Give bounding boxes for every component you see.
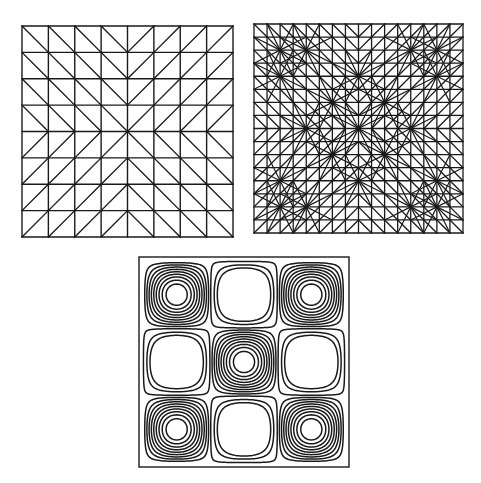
mesh-diagonal-edge xyxy=(372,37,385,50)
mesh-hub-node xyxy=(279,179,282,182)
mesh-diagonal-edge xyxy=(75,211,101,237)
mesh-diagonal-edge xyxy=(75,158,101,184)
mesh-diagonal-edge xyxy=(306,50,319,63)
coarse-triangular-mesh xyxy=(22,26,233,237)
mesh-diagonal-edge xyxy=(359,168,372,181)
mesh-diagonal-edge xyxy=(411,24,424,37)
mesh-diagonal-edge xyxy=(267,220,280,233)
mesh-diagonal-edge xyxy=(293,102,306,115)
mesh-diagonal-edge xyxy=(180,158,206,184)
mesh-diagonal-edge xyxy=(267,168,280,181)
mesh-diagonal-edge xyxy=(254,115,267,128)
mesh-diagonal-edge xyxy=(319,63,332,76)
mesh-diagonal-edge xyxy=(385,24,398,37)
mesh-diagonal-edge xyxy=(345,89,358,102)
mesh-diagonal-edge xyxy=(359,24,372,37)
mesh-diagonal-edge xyxy=(207,211,233,237)
mesh-diagonal-edge xyxy=(437,142,450,155)
mesh-diagonal-edge xyxy=(101,26,127,52)
mesh-hub-node xyxy=(279,49,282,52)
mesh-diagonal-edge xyxy=(385,194,398,207)
mesh-diagonal-edge xyxy=(372,89,385,102)
mesh-diagonal-edge xyxy=(254,220,267,233)
mesh-diagonal-edge xyxy=(437,194,450,207)
mesh-diagonal-edge xyxy=(345,63,358,76)
mesh-diagonal-edge xyxy=(48,105,74,131)
mesh-diagonal-edge xyxy=(411,89,424,102)
mesh-diagonal-edge xyxy=(280,129,293,142)
mesh-diagonal-edge xyxy=(372,76,385,89)
mesh-diagonal-edge xyxy=(398,50,411,63)
mesh-diagonal-edge xyxy=(48,211,74,237)
mesh-diagonal-edge xyxy=(306,129,319,142)
mesh-diagonal-edge xyxy=(332,102,345,115)
mesh-diagonal-edge xyxy=(385,181,398,194)
mesh-diagonal-edge xyxy=(450,76,463,89)
mesh-diagonal-edge xyxy=(254,102,267,115)
mesh-diagonal-edge xyxy=(372,115,385,128)
mesh-diagonal-edge xyxy=(293,37,306,50)
mesh-diagonal-edge xyxy=(101,79,127,105)
mesh-diagonal-edge xyxy=(280,89,293,102)
mesh-diagonal-edge xyxy=(306,194,319,207)
mesh-diagonal-edge xyxy=(280,207,293,220)
mesh-diagonal-edge xyxy=(411,220,424,233)
mesh-diagonal-edge xyxy=(75,132,101,158)
mesh-diagonal-edge xyxy=(385,89,398,102)
mesh-diagonal-edge xyxy=(254,24,267,37)
mesh-diagonal-edge xyxy=(267,207,280,220)
mesh-diagonal-edge xyxy=(180,211,206,237)
mesh-diagonal-edge xyxy=(372,168,385,181)
mesh-hub-node xyxy=(383,101,386,104)
mesh-diagonal-edge xyxy=(319,220,332,233)
mesh-diagonal-edge xyxy=(306,220,319,233)
contour-line xyxy=(154,272,335,453)
mesh-diagonal-edge xyxy=(254,129,267,142)
mesh-diagonal-edge xyxy=(411,129,424,142)
mesh-diagonal-edge xyxy=(306,181,319,194)
mesh-diagonal-edge xyxy=(180,132,206,158)
mesh-diagonal-edge xyxy=(254,155,267,168)
mesh-hub-node xyxy=(305,49,308,52)
mesh-diagonal-edge xyxy=(385,220,398,233)
mesh-diagonal-edge xyxy=(101,105,127,131)
mesh-diagonal-edge xyxy=(450,115,463,128)
mesh-diagonal-edge xyxy=(280,194,293,207)
mesh-diagonal-edge xyxy=(398,220,411,233)
mesh-hub-node xyxy=(279,205,282,208)
mesh-diagonal-edge xyxy=(75,184,101,210)
mesh-diagonal-edge xyxy=(207,132,233,158)
mesh-diagonal-edge xyxy=(424,168,437,181)
mesh-diagonal-edge xyxy=(293,168,306,181)
mesh-diagonal-edge xyxy=(398,181,411,194)
mesh-diagonal-edge xyxy=(254,63,267,76)
mesh-diagonal-edge xyxy=(280,142,293,155)
contour-plot xyxy=(139,257,349,467)
mesh-diagonal-edge xyxy=(332,194,345,207)
mesh-diagonal-edge xyxy=(267,115,280,128)
mesh-diagonal-edge xyxy=(424,220,437,233)
contour-line xyxy=(150,268,338,456)
mesh-hub-node xyxy=(357,127,360,130)
mesh-diagonal-edge xyxy=(411,50,424,63)
mesh-diagonal-edge xyxy=(424,102,437,115)
mesh-diagonal-edge xyxy=(424,37,437,50)
mesh-diagonal-edge xyxy=(332,76,345,89)
mesh-diagonal-edge xyxy=(424,63,437,76)
mesh-diagonal-edge xyxy=(319,207,332,220)
contour-line xyxy=(147,265,341,459)
mesh-diagonal-edge xyxy=(372,129,385,142)
mesh-diagonal-edge xyxy=(372,220,385,233)
mesh-hub-node xyxy=(409,205,412,208)
mesh-diagonal-edge xyxy=(424,50,437,63)
mesh-diagonal-edge xyxy=(267,181,280,194)
mesh-diagonal-edge xyxy=(267,50,280,63)
mesh-diagonal-edge xyxy=(359,155,372,168)
mesh-hub-node xyxy=(305,205,308,208)
mesh-diagonal-edge xyxy=(267,37,280,50)
contour-line xyxy=(143,261,344,462)
contour-line xyxy=(151,269,336,454)
mesh-diagonal-edge xyxy=(372,24,385,37)
mesh-diagonal-edge xyxy=(424,155,437,168)
mesh-diagonal-edge xyxy=(450,37,463,50)
